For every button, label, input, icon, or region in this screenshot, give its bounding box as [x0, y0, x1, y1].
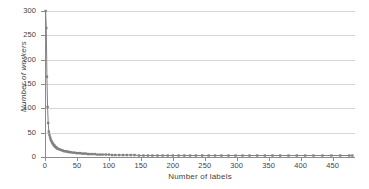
x-tick-label-250: 250: [191, 161, 219, 170]
x-tick-label-0: 0: [31, 161, 59, 170]
data-point: [201, 154, 203, 156]
data-point: [172, 154, 174, 156]
data-point: [183, 154, 185, 156]
data-point: [156, 154, 158, 156]
data-point: [44, 10, 46, 12]
data-point: [96, 153, 98, 155]
x-tick-label-100: 100: [95, 161, 123, 170]
data-point: [138, 154, 140, 156]
data-point: [129, 154, 131, 156]
x-tick-label-400: 400: [287, 161, 315, 170]
data-point: [189, 154, 191, 156]
data-point: [296, 154, 298, 156]
data-point: [126, 154, 128, 156]
data-point: [147, 154, 149, 156]
series-line-0: [46, 11, 353, 156]
x-tick-label-200: 200: [159, 161, 187, 170]
plot-area: [45, 11, 355, 157]
data-point: [89, 153, 91, 155]
x-tick-label-450: 450: [319, 161, 347, 170]
data-point: [46, 106, 48, 108]
data-point: [241, 154, 243, 156]
data-point: [48, 130, 50, 132]
data-point: [151, 154, 153, 156]
data-point: [142, 154, 144, 156]
data-point: [167, 154, 169, 156]
data-point: [339, 154, 341, 156]
data-point: [330, 154, 332, 156]
x-tick-label-350: 350: [255, 161, 283, 170]
x-tick-label-50: 50: [63, 161, 91, 170]
data-point: [47, 122, 49, 124]
x-tick-label-150: 150: [127, 161, 155, 170]
data-point: [321, 154, 323, 156]
data-point: [118, 154, 120, 156]
x-tick-label-300: 300: [223, 161, 251, 170]
data-point: [207, 154, 209, 156]
data-point: [351, 154, 353, 156]
data-point: [248, 154, 250, 156]
data-point: [195, 154, 197, 156]
data-point: [279, 154, 281, 156]
data-point: [101, 153, 103, 155]
data-point: [348, 154, 350, 156]
data-point: [264, 154, 266, 156]
data-point: [271, 154, 273, 156]
x-axis-title: Number of labels: [45, 172, 355, 181]
data-point: [48, 134, 50, 136]
data-point: [304, 154, 306, 156]
data-point: [287, 154, 289, 156]
data-point: [122, 154, 124, 156]
data-point: [99, 153, 101, 155]
data-point: [91, 153, 93, 155]
data-point: [220, 154, 222, 156]
data-point: [94, 153, 96, 155]
data-point: [161, 154, 163, 156]
data-point: [312, 154, 314, 156]
y-axis-title: Number of workers: [19, 7, 28, 147]
data-point: [234, 154, 236, 156]
y-tick-label-0: 0: [6, 153, 36, 161]
data-point: [111, 154, 113, 156]
data-series-workers: [45, 11, 355, 157]
data-point: [46, 76, 48, 78]
x-axis-line: [45, 157, 355, 158]
data-point: [256, 154, 258, 156]
data-point: [133, 154, 135, 156]
data-point: [105, 153, 107, 155]
chart-figure: 0501001502002503000501001502002503003504…: [0, 0, 369, 189]
data-point: [214, 154, 216, 156]
data-point: [177, 154, 179, 156]
data-point: [227, 154, 229, 156]
data-point: [114, 154, 116, 156]
data-point: [45, 27, 47, 29]
data-point: [108, 153, 110, 155]
